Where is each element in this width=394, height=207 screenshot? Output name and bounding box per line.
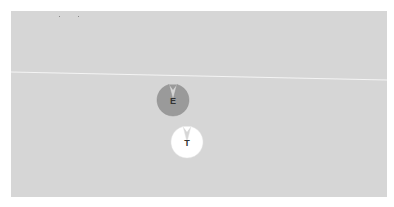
divider-line [11,11,387,197]
speck [59,16,60,17]
piece-label: T [168,123,206,161]
speck [78,16,79,17]
piece-t[interactable]: T [168,123,206,161]
piece-e[interactable]: E [154,81,192,119]
piece-label: E [154,81,192,119]
game-board[interactable] [11,11,387,197]
